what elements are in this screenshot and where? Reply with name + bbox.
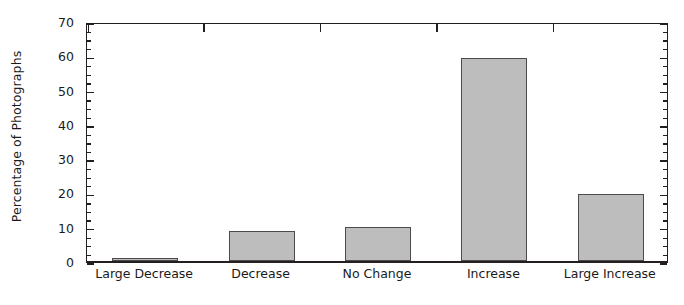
y-axis-tick-mark (660, 263, 667, 265)
y-axis-tick-label: 70 (58, 17, 74, 30)
bar-slot (436, 24, 552, 261)
bar (578, 194, 644, 261)
y-axis-tick-labels: 010203040506070 (34, 0, 80, 305)
y-axis-tick-label: 0 (66, 257, 74, 270)
bar-slot (320, 24, 436, 261)
y-axis-tick-label: 20 (58, 188, 74, 201)
bar (229, 231, 295, 261)
y-axis-title: Percentage of Photographs (0, 0, 34, 272)
y-axis-tick-label: 30 (58, 154, 74, 167)
bar (345, 227, 411, 261)
x-axis-tick-label: Large Increase (552, 268, 668, 281)
bar-chart-figure: Percentage of Photographs 01020304050607… (0, 0, 684, 305)
bar (112, 258, 178, 261)
y-axis-title-text: Percentage of Photographs (10, 50, 25, 222)
bar-slot (203, 24, 319, 261)
y-axis-tick-mark (87, 263, 94, 265)
y-axis-tick-label: 60 (58, 51, 74, 64)
x-axis-tick-label: Decrease (202, 268, 318, 281)
plot-area (86, 23, 668, 263)
y-axis-tick-label: 50 (58, 85, 74, 98)
bar-slot (87, 24, 203, 261)
x-axis-tick-labels: Large DecreaseDecreaseNo ChangeIncreaseL… (86, 268, 668, 298)
bar-series (87, 24, 667, 261)
bar-slot (553, 24, 669, 261)
x-axis-tick-label: No Change (319, 268, 435, 281)
y-axis-tick-label: 40 (58, 120, 74, 133)
y-axis-tick-label: 10 (58, 222, 74, 235)
x-axis-tick-label: Increase (435, 268, 551, 281)
x-axis-tick-label: Large Decrease (86, 268, 202, 281)
bar (461, 58, 527, 261)
